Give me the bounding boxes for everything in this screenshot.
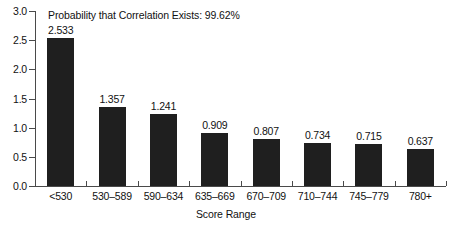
y-axis-tick-label: 1.5 bbox=[13, 94, 27, 104]
y-axis-tick-label: 1.0 bbox=[13, 123, 27, 133]
x-axis-tick bbox=[343, 181, 344, 186]
y-axis-tick-label: 0.5 bbox=[13, 152, 27, 162]
y-axis-tick-label: 2.5 bbox=[13, 35, 27, 45]
bar bbox=[201, 133, 228, 186]
x-axis-category-label: 780+ bbox=[390, 190, 450, 202]
x-axis-title: Score Range bbox=[0, 208, 452, 220]
x-axis-tick bbox=[241, 181, 242, 186]
x-axis-line bbox=[35, 186, 446, 187]
x-axis-tick bbox=[86, 181, 87, 186]
x-axis-tick bbox=[395, 181, 396, 186]
y-axis-tick bbox=[29, 11, 35, 12]
bar bbox=[407, 149, 434, 186]
y-axis-tick bbox=[29, 69, 35, 70]
x-axis-tick bbox=[446, 181, 447, 186]
bar-value-label: 0.734 bbox=[293, 130, 343, 141]
bar bbox=[99, 107, 126, 186]
y-axis-tick bbox=[29, 99, 35, 100]
y-axis-tick-label: 3.0 bbox=[13, 6, 27, 16]
bar-value-label: 1.241 bbox=[138, 101, 188, 112]
bar bbox=[253, 139, 280, 186]
bar bbox=[304, 143, 331, 186]
bar-value-label: 1.357 bbox=[87, 94, 137, 105]
x-axis-tick bbox=[292, 181, 293, 186]
bar bbox=[47, 38, 74, 186]
y-axis-tick-label: 0.0 bbox=[13, 181, 27, 191]
y-axis-tick bbox=[29, 40, 35, 41]
bar-value-label: 0.715 bbox=[344, 131, 394, 142]
y-axis-line bbox=[35, 11, 36, 187]
bar-value-label: 0.807 bbox=[241, 126, 291, 137]
bar bbox=[355, 144, 382, 186]
x-axis-tick bbox=[189, 181, 190, 186]
y-axis-tick-label: 2.0 bbox=[13, 64, 27, 74]
bar bbox=[150, 114, 177, 186]
bar-value-label: 0.637 bbox=[395, 136, 445, 147]
bar-value-label: 0.909 bbox=[190, 120, 240, 131]
bar-chart-figure: Probability that Correlation Exists: 99.… bbox=[0, 0, 452, 231]
y-axis-tick bbox=[29, 128, 35, 129]
bar-value-label: 2.533 bbox=[36, 25, 86, 36]
chart-title: Probability that Correlation Exists: 99.… bbox=[48, 9, 240, 21]
y-axis-tick bbox=[29, 186, 35, 187]
y-axis-tick bbox=[29, 157, 35, 158]
x-axis-tick bbox=[138, 181, 139, 186]
